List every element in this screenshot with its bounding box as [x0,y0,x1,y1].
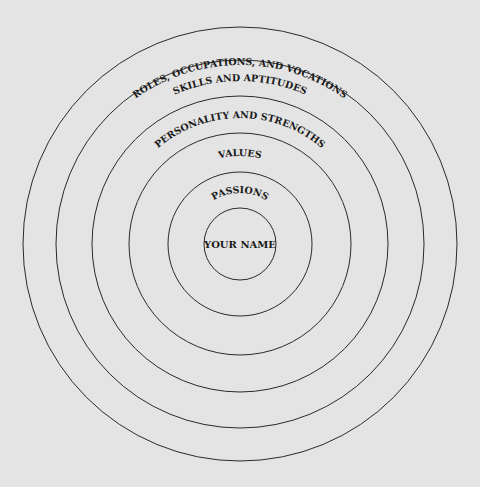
label-passions: PASSIONS [209,184,270,202]
concentric-circles-diagram: ROLES, OCCUPATIONS, AND VOCATIONS SKILLS… [0,0,480,487]
label-values: VALUES [216,147,263,161]
label-personality: PERSONALITY AND STRENGTHS [152,109,327,150]
label-your-name: YOUR NAME [203,239,276,250]
label-skills: SKILLS AND APTITUDES [171,72,309,97]
